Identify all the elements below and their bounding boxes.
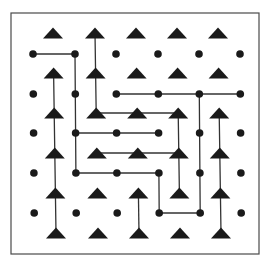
dot-icon (155, 129, 163, 137)
dot-icon (30, 90, 38, 98)
dot-icon (30, 169, 38, 177)
dot-icon (237, 169, 245, 177)
lattice-diagram (0, 0, 269, 266)
dot-icon (113, 169, 121, 177)
dot-icon (154, 50, 162, 58)
dot-icon (72, 90, 80, 98)
triangle-icon (208, 28, 228, 39)
dot-icon (155, 169, 163, 177)
triangle-icon (168, 68, 188, 79)
triangle-icon (85, 28, 105, 39)
path-lines (33, 33, 240, 233)
triangle-icon (126, 28, 146, 39)
dot-icon (195, 50, 203, 58)
triangle-icon (169, 188, 189, 199)
dot-icon (237, 90, 245, 98)
triangle-icon (210, 148, 230, 159)
dot-icon (30, 209, 38, 217)
triangle-icon (87, 188, 107, 199)
triangle-icon (129, 228, 149, 239)
dot-icon (155, 90, 163, 98)
dot-icon (237, 209, 245, 217)
dot-icon (237, 129, 245, 137)
triangle-path-line (138, 193, 139, 233)
triangle-icon (45, 148, 65, 159)
triangle-icon (43, 28, 63, 39)
triangle-icon (46, 228, 66, 239)
triangle-icon (209, 68, 229, 79)
triangle-icon (44, 108, 64, 119)
dot-icon (71, 50, 79, 58)
dot-icon (72, 169, 80, 177)
triangle-icon (211, 228, 231, 239)
dot-icon (113, 209, 121, 217)
triangle-path-line (219, 113, 221, 233)
triangle-icon (167, 28, 187, 39)
dot-icon (196, 209, 204, 217)
dot-icon (155, 209, 163, 217)
dot-icon (196, 90, 204, 98)
dot-icon (72, 129, 80, 137)
dot-icon (236, 50, 244, 58)
triangle-icon (127, 68, 147, 79)
dot-icon (112, 50, 120, 58)
dot-icon (30, 129, 38, 137)
triangle-icon (170, 228, 190, 239)
dot-icon (196, 129, 204, 137)
dot-icon (72, 209, 80, 217)
triangle-icon (88, 228, 108, 239)
triangle-icon (210, 188, 230, 199)
dot-icon (196, 169, 204, 177)
triangle-icon (44, 68, 64, 79)
dot-icon (113, 90, 121, 98)
triangle-icon (209, 108, 229, 119)
triangle-icon (128, 188, 148, 199)
triangle-icon (86, 68, 106, 79)
triangle-icon (45, 188, 65, 199)
dot-icon (29, 50, 37, 58)
dot-icon (113, 129, 121, 137)
